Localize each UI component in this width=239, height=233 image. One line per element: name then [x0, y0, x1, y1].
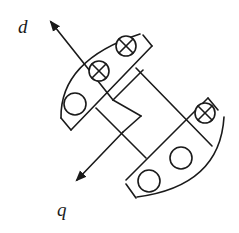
- lower-dot-conductor-1: [170, 147, 192, 169]
- d-axis-arrow: [51, 22, 113, 100]
- q-axis-label: q: [57, 199, 67, 220]
- lower-dot-conductor-2: [138, 170, 160, 192]
- coil-side: [113, 70, 143, 100]
- lower-pole: [126, 98, 224, 198]
- upper-dot-conductor: [64, 93, 86, 115]
- q-axis-arrow: [77, 132, 123, 180]
- lower-pole-end-tick-2: [126, 184, 136, 198]
- coil-side: [96, 108, 146, 158]
- upper-pole-end-tick: [143, 35, 152, 46]
- dq-diagram: d q: [0, 0, 239, 233]
- d-axis-label: d: [18, 16, 28, 37]
- coil-side: [123, 116, 141, 132]
- coil-side: [113, 100, 141, 116]
- upper-pole: [61, 34, 152, 130]
- upper-pole-end-tick-2: [61, 118, 71, 130]
